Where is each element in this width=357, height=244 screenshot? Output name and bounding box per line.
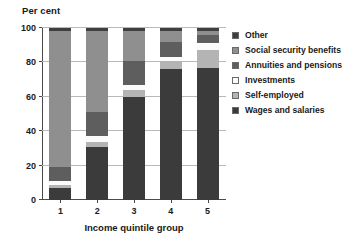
plot-area: 020406080100 12345 (42, 28, 226, 200)
bar-segment (49, 28, 71, 31)
bar-segment (86, 112, 108, 136)
x-tick-mark (97, 200, 98, 203)
x-tick-label: 5 (205, 206, 210, 216)
legend-label: Annuities and pensions (245, 61, 342, 70)
y-tick-mark (39, 165, 42, 166)
legend-swatch-icon (232, 32, 239, 39)
y-tick-mark (39, 61, 42, 62)
bar-quintile-4 (160, 28, 182, 200)
bar-quintile-3 (123, 28, 145, 200)
bar-segment (197, 68, 219, 200)
legend-swatch-icon (232, 92, 239, 99)
bar-segment (197, 50, 219, 67)
y-tick-mark (39, 130, 42, 131)
bar-quintile-1 (49, 28, 71, 200)
bar-segment (123, 97, 145, 200)
bar-segment (160, 69, 182, 200)
y-tick-label: 100 (21, 23, 36, 33)
bar-segment (160, 57, 182, 60)
y-tick-label: 0 (31, 195, 36, 205)
legend-item[interactable]: Other (232, 28, 356, 43)
y-tick-label: 60 (26, 92, 36, 102)
bar-segment (160, 61, 182, 70)
stacked-bar-chart: Per cent 020406080100 12345 Income quint… (0, 0, 357, 244)
bar-segment (86, 142, 108, 147)
legend-swatch-icon (232, 62, 239, 69)
bar-segment (123, 28, 145, 31)
legend-label: Self-employed (245, 91, 304, 100)
y-tick-mark (39, 96, 42, 97)
chart-legend: OtherSocial security benefitsAnnuities a… (232, 28, 356, 118)
bar-segment (86, 28, 108, 31)
x-tick-mark (134, 200, 135, 203)
legend-label: Other (245, 31, 268, 40)
bar-segment (197, 31, 219, 34)
bar-segment (86, 136, 108, 141)
y-tick-mark (39, 27, 42, 28)
bar-segment (197, 35, 219, 44)
x-tick-mark (208, 200, 209, 203)
bar-segment (197, 44, 219, 51)
x-tick-label: 2 (95, 206, 100, 216)
bar-segment (86, 147, 108, 200)
legend-item[interactable]: Investments (232, 73, 356, 88)
bar-segment (123, 31, 145, 60)
legend-item[interactable]: Annuities and pensions (232, 58, 356, 73)
bar-segment (160, 28, 182, 31)
y-tick-label: 80 (26, 57, 36, 67)
legend-label: Wages and salaries (245, 106, 324, 115)
x-tick-label: 1 (58, 206, 63, 216)
bar-segment (197, 28, 219, 31)
legend-label: Social security benefits (245, 46, 341, 55)
legend-label: Investments (245, 76, 295, 85)
bar-segment (49, 188, 71, 200)
bar-segment (160, 42, 182, 57)
bar-quintile-2 (86, 28, 108, 200)
bar-segment (49, 167, 71, 181)
x-tick-mark (171, 200, 172, 203)
x-tick-mark (60, 200, 61, 203)
bar-segment (123, 90, 145, 97)
bar-segment (160, 31, 182, 41)
bar-segment (49, 181, 71, 184)
x-tick-label: 3 (131, 206, 136, 216)
legend-swatch-icon (232, 77, 239, 84)
y-tick-label: 40 (26, 126, 36, 136)
bar-quintile-5 (197, 28, 219, 200)
legend-swatch-icon (232, 47, 239, 54)
y-tick-label: 20 (26, 161, 36, 171)
y-axis-title: Per cent (22, 5, 60, 16)
bar-segment (86, 31, 108, 112)
legend-item[interactable]: Social security benefits (232, 43, 356, 58)
bar-segment (123, 61, 145, 85)
bar-segment (123, 85, 145, 90)
y-tick-mark (39, 199, 42, 200)
legend-swatch-icon (232, 107, 239, 114)
bar-segment (49, 185, 71, 188)
x-tick-label: 4 (168, 206, 173, 216)
legend-item[interactable]: Wages and salaries (232, 103, 356, 118)
x-axis-title: Income quintile group (42, 222, 226, 233)
bar-segment (49, 31, 71, 167)
legend-item[interactable]: Self-employed (232, 88, 356, 103)
